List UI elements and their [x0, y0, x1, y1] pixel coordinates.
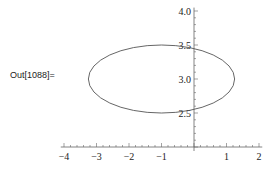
y-tick-label: 2.5	[179, 108, 192, 119]
y-tick-label: 3.0	[179, 74, 192, 85]
x-tick-label: −4	[59, 151, 70, 162]
x-tick-label: 2	[257, 151, 262, 162]
y-tick-label: 4.0	[179, 6, 192, 17]
ellipse-curve	[88, 45, 234, 113]
x-tick-label: −3	[91, 151, 102, 162]
plot-area: −4−3−2−1122.53.03.54.0	[0, 0, 274, 169]
x-tick-label: −2	[124, 151, 135, 162]
x-tick-label: 1	[224, 151, 229, 162]
y-tick-label: 3.5	[179, 40, 192, 51]
x-tick-label: −1	[156, 151, 167, 162]
